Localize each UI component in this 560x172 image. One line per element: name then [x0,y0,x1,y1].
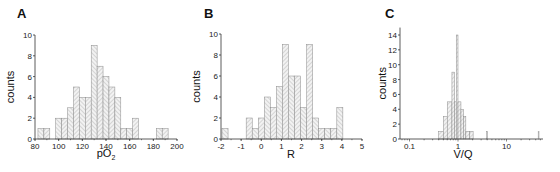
histogram-bar [313,118,319,139]
y-axis-label: counts [4,70,16,103]
x-tick-label: 5 [360,142,365,151]
histogram-bar [470,132,473,139]
y-tick-label: 10 [23,31,32,40]
y-tick-label: 2 [393,120,398,129]
y-axis-label: counts [190,70,202,103]
histogram-bar [264,97,270,139]
y-tick-label: 4 [393,105,398,114]
histogram-pO2: 0246810Acounts80100120140160180200pO2 [4,6,184,161]
panel-label: B [204,6,213,21]
panel-label: A [17,6,27,21]
y-tick-label: 10 [388,61,397,70]
histogram-bar [162,129,168,139]
histogram-bar [246,118,252,139]
x-tick-label: 120 [76,142,90,151]
histogram-bar [222,129,228,140]
histogram-bar [443,117,447,139]
x-tick-label: 80 [31,142,40,151]
x-tick-label: 200 [170,142,184,151]
histogram-bar [115,97,121,139]
x-tick-label: 2 [299,142,304,151]
y-tick-label: 0 [393,135,398,144]
y-axis-label: counts [376,67,388,100]
histogram-bar [458,102,461,139]
histogram-bar [282,45,288,140]
x-tick-label: -2 [217,142,225,151]
histogram-bar [38,129,44,139]
histogram-bar [455,102,457,139]
histogram-bar [103,77,109,139]
y-tick-label: 14 [388,31,397,40]
histogram-bar [270,108,276,140]
histogram-bar [252,129,258,140]
histogram-bar [307,45,313,140]
x-axis-label: R [287,148,295,160]
histogram-bar [301,108,307,140]
histogram-bar [487,132,488,139]
x-tick-label: 0 [259,142,264,151]
histogram-bar [452,72,455,139]
histogram-bar [258,118,264,139]
histogram-bar [79,97,85,139]
histogram-bar [62,118,68,139]
histogram-bar [56,118,62,139]
x-tick-label: 180 [147,142,161,151]
histogram-bar [73,87,79,139]
x-tick-label: 1 [279,142,284,151]
y-tick-label: 6 [28,73,33,82]
histogram-bar [319,129,325,140]
histogram-bar [91,45,97,139]
histogram-bar [127,129,133,139]
histogram-bar [133,118,139,139]
histogram-bar [439,132,444,139]
histogram-bar [276,87,282,140]
histogram-bar [331,129,337,140]
histogram-bar [109,87,115,139]
histogram-bar [461,109,464,139]
y-tick-label: 6 [393,90,398,99]
y-tick-label: 8 [214,51,219,60]
histogram-VQ: 02468101214Ccounts0.1110V/Q [376,6,543,160]
y-tick-label: 4 [214,93,219,102]
histogram-bar [68,108,74,139]
histogram-bar [121,129,127,139]
y-tick-label: 8 [393,76,398,85]
histogram-bar [456,35,458,139]
y-tick-label: 2 [28,114,33,123]
histogram-bar [337,108,343,140]
y-tick-label: 8 [28,52,33,61]
histogram-bar [325,129,331,140]
histogram-bar [44,129,50,139]
y-tick-label: 2 [214,114,219,123]
x-tick-label: 0.1 [404,142,416,151]
histogram-bar [447,102,452,139]
histogram-bar [85,97,91,139]
x-axis-label: V/Q [454,148,473,160]
histogram-bar [97,66,103,139]
histogram-R: 0246810Bcounts-2-1012345R [190,6,365,160]
x-tick-label: 3 [319,142,324,151]
x-tick-label: 4 [340,142,345,151]
histogram-bar [295,76,301,139]
figure: 0246810Acounts80100120140160180200pO2 02… [0,0,560,172]
histogram-bar [466,132,470,139]
histogram-bar [538,132,539,139]
panel-label: C [385,6,395,21]
x-tick-label: 10 [502,142,511,151]
y-tick-label: 10 [209,30,218,39]
x-tick-label: 100 [52,142,66,151]
histogram-bar [288,76,294,139]
y-tick-label: 6 [214,72,219,81]
y-tick-label: 12 [388,46,397,55]
histogram-bar [156,129,162,139]
x-tick-label: 160 [123,142,137,151]
histogram-bar [464,117,466,139]
x-tick-label: -1 [238,142,246,151]
y-tick-label: 4 [28,93,33,102]
